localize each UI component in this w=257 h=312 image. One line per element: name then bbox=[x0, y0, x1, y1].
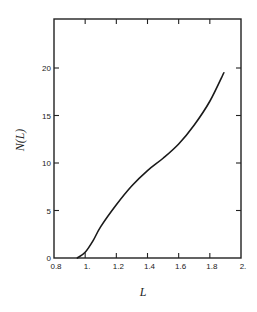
y-tick-label: 0 bbox=[47, 254, 52, 263]
x-tick-label: 0.8 bbox=[50, 262, 62, 271]
x-tick-label: 1.2 bbox=[113, 262, 125, 271]
x-tick-label: 1.8 bbox=[206, 262, 218, 271]
plot-frame bbox=[54, 19, 241, 258]
x-axis-title: L bbox=[139, 285, 147, 299]
x-axis-tick-labels: 0.81.1.21.41.61.82. bbox=[50, 262, 246, 271]
y-tick-label: 10 bbox=[42, 159, 51, 168]
y-axis-ticks bbox=[54, 68, 241, 211]
y-tick-label: 5 bbox=[47, 207, 52, 216]
x-tick-label: 1. bbox=[84, 262, 91, 271]
data-curve bbox=[77, 73, 223, 258]
x-tick-label: 1.4 bbox=[144, 262, 156, 271]
y-tick-label: 20 bbox=[42, 64, 51, 73]
x-tick-label: 2. bbox=[240, 262, 247, 271]
y-axis-title: N(L) bbox=[13, 129, 27, 153]
y-axis-tick-labels: 05101520 bbox=[42, 64, 51, 263]
y-tick-label: 15 bbox=[42, 112, 51, 121]
x-tick-label: 1.6 bbox=[175, 262, 187, 271]
chart: 0.81.1.21.41.61.82. 05101520 L N(L) bbox=[0, 0, 257, 312]
